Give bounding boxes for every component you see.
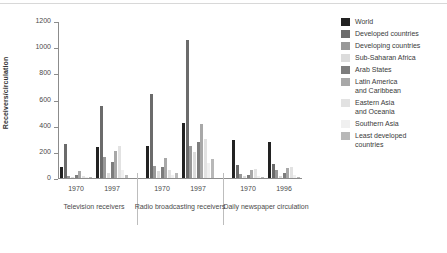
bar <box>193 152 196 178</box>
y-tick: 1200 <box>54 22 58 23</box>
bar <box>175 173 178 178</box>
x-tick-label: 1996 <box>276 185 292 192</box>
legend-label: Arab States <box>355 65 392 74</box>
bar <box>236 165 239 178</box>
legend-label: Sub-Saharan Africa <box>355 53 416 62</box>
bar <box>146 146 149 178</box>
bar <box>250 170 253 178</box>
legend-item[interactable]: Least developed countries <box>341 131 445 149</box>
legend-label: World <box>355 17 373 26</box>
top-rule-divider <box>0 3 447 4</box>
y-tick: 400 <box>54 127 58 128</box>
bar <box>261 177 264 178</box>
y-tick: 800 <box>54 74 58 75</box>
group-separator <box>223 173 224 225</box>
bar <box>239 174 242 178</box>
x-tick-label: 1997 <box>104 185 120 192</box>
bar <box>257 176 260 178</box>
x-tick-label: 1970 <box>240 185 256 192</box>
bar <box>293 175 296 178</box>
bar <box>161 167 164 178</box>
bar <box>153 166 156 178</box>
bar <box>232 140 235 178</box>
legend-label: Developing countries <box>355 41 420 50</box>
bar <box>272 164 275 178</box>
bar <box>85 177 88 178</box>
bar <box>275 170 278 178</box>
legend-label: Least developed countries <box>355 131 406 149</box>
bar <box>75 175 78 178</box>
bar <box>279 176 282 178</box>
bar <box>157 171 160 178</box>
y-tick-label: 1200 <box>35 17 51 24</box>
legend-label: Developed countries <box>355 29 419 38</box>
legend-item[interactable]: Eastern Asia and Oceania <box>341 98 445 116</box>
x-axis-line <box>58 178 302 179</box>
legend-swatch-icon <box>341 42 350 50</box>
legend-label: Latin America and Caribbean <box>355 77 401 95</box>
chart-legend: WorldDeveloped countriesDeveloping count… <box>341 17 445 152</box>
x-tick-label: 1970 <box>68 185 84 192</box>
bar <box>207 163 210 178</box>
bar <box>82 176 85 178</box>
x-group-label: Television receivers <box>63 202 124 211</box>
bar <box>107 173 110 178</box>
x-tick-label: 1997 <box>190 185 206 192</box>
bar <box>114 151 117 178</box>
legend-swatch-icon <box>341 54 350 62</box>
bar <box>204 139 207 179</box>
bar <box>71 177 74 178</box>
y-tick-label: 1000 <box>35 43 51 50</box>
legend-item[interactable]: Developing countries <box>341 41 445 50</box>
bar <box>254 169 257 178</box>
y-tick-label: 400 <box>39 122 51 129</box>
y-tick-label: 200 <box>39 148 51 155</box>
bar <box>96 147 99 178</box>
bar <box>89 177 92 178</box>
bar <box>100 106 103 178</box>
y-tick: 600 <box>54 101 58 102</box>
bar <box>186 40 189 178</box>
chart-figure: Receivers/circulation 020040060080010001… <box>0 0 447 253</box>
y-axis-label: Receivers/circulation <box>2 38 9 148</box>
y-tick: 200 <box>54 153 58 154</box>
bar <box>78 171 81 178</box>
legend-item[interactable]: Arab States <box>341 65 445 74</box>
y-tick-label: 600 <box>39 96 51 103</box>
y-tick: 1000 <box>54 48 58 49</box>
bar <box>200 124 203 178</box>
bar <box>211 159 214 178</box>
bar <box>168 170 171 178</box>
legend-item[interactable]: Developed countries <box>341 29 445 38</box>
bar <box>243 176 246 178</box>
y-tick-label: 800 <box>39 69 51 76</box>
bar <box>150 94 153 178</box>
legend-item[interactable]: Latin America and Caribbean <box>341 77 445 95</box>
legend-item[interactable]: World <box>341 17 445 26</box>
bar <box>64 144 67 178</box>
plot-area: 020040060080010001200 <box>58 22 302 179</box>
bar <box>60 167 63 178</box>
x-group-label: Daily newspaper circulation <box>223 202 308 211</box>
bar <box>171 175 174 178</box>
bar <box>111 162 114 178</box>
y-tick: 0 <box>54 179 58 180</box>
bar <box>297 177 300 178</box>
legend-item[interactable]: Sub-Saharan Africa <box>341 53 445 62</box>
legend-swatch-icon <box>341 66 350 74</box>
bar <box>290 167 293 179</box>
legend-swatch-icon <box>341 18 350 26</box>
legend-swatch-icon <box>341 132 350 140</box>
x-group-label: Radio broadcasting receivers <box>135 202 226 211</box>
bar <box>125 175 128 178</box>
legend-label: Eastern Asia and Oceania <box>355 98 395 116</box>
legend-swatch-icon <box>341 30 350 38</box>
legend-item[interactable]: Southern Asia <box>341 119 445 128</box>
bar <box>283 173 286 178</box>
bar <box>197 142 200 178</box>
legend-swatch-icon <box>341 99 350 107</box>
y-axis-line <box>58 22 59 179</box>
group-separator <box>137 173 138 225</box>
bar <box>164 158 167 178</box>
bar <box>67 176 70 178</box>
